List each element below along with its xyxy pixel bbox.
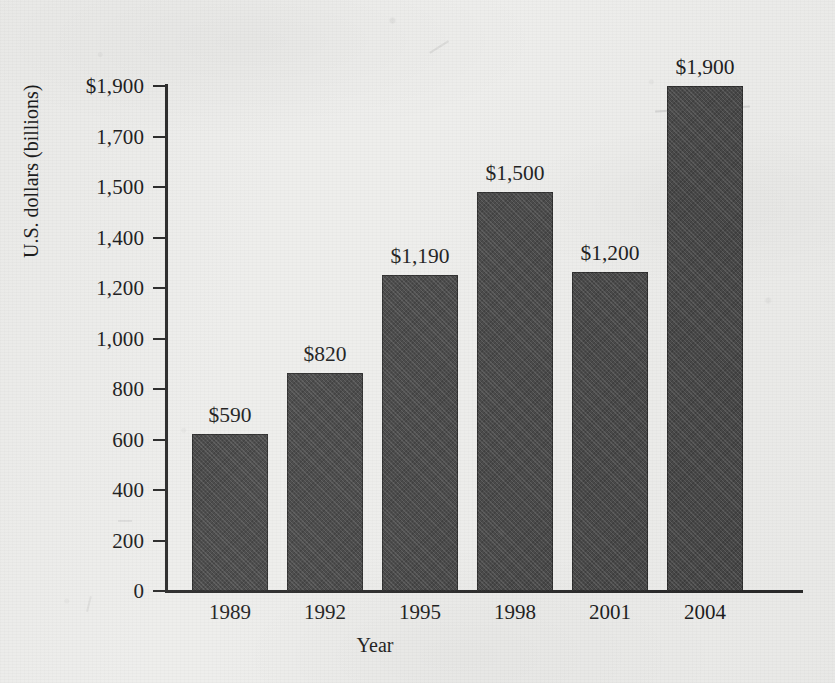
bar (192, 434, 268, 591)
y-axis-tick-label: 400 (0, 478, 144, 503)
x-axis-tick-label: 1989 (209, 600, 251, 625)
y-axis-title: U.S. dollars (billions) (20, 0, 43, 258)
bar-value-label: $1,200 (580, 241, 639, 266)
y-axis-tick (153, 489, 166, 491)
bar-chart: 02004006008001,0001,2001,4001,5001,700$1… (0, 0, 835, 683)
y-axis-tick-label: 800 (0, 377, 144, 402)
bar (572, 272, 648, 591)
x-axis-tick-label: 2001 (589, 600, 631, 625)
y-axis-tick (153, 85, 166, 87)
y-axis-tick (153, 186, 166, 188)
y-axis-tick-label: 600 (0, 427, 144, 452)
y-axis-tick-label: 1,200 (0, 276, 144, 301)
bar-value-label: $1,190 (390, 244, 449, 269)
y-axis-tick (153, 388, 166, 390)
y-axis-tick (153, 338, 166, 340)
bar (477, 192, 553, 591)
y-axis-tick (153, 287, 166, 289)
y-axis-tick (153, 590, 166, 592)
y-axis-tick-label: 0 (0, 579, 144, 604)
bar-value-label: $1,500 (485, 161, 544, 186)
x-axis-tick-label: 1995 (399, 600, 441, 625)
y-axis-tick-label: 200 (0, 528, 144, 553)
bar-value-label: $820 (304, 342, 347, 367)
bar-value-label: $590 (209, 403, 252, 428)
y-axis-tick (153, 439, 166, 441)
y-axis-tick-label: 1,000 (0, 326, 144, 351)
y-axis-tick (153, 540, 166, 542)
chart-page: 02004006008001,0001,2001,4001,5001,700$1… (0, 0, 835, 683)
x-axis-tick-label: 1998 (494, 600, 536, 625)
bar (382, 275, 458, 591)
y-axis-tick (153, 237, 166, 239)
bar (287, 373, 363, 591)
bar (667, 86, 743, 591)
bar-value-label: $1,900 (675, 55, 734, 80)
x-axis-tick-label: 2004 (684, 600, 726, 625)
x-axis-tick-label: 1992 (304, 600, 346, 625)
x-axis-title: Year (357, 634, 394, 657)
y-axis-tick (153, 136, 166, 138)
